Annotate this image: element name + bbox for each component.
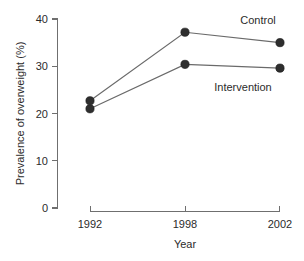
- y-tick-label-40: 40: [36, 13, 48, 25]
- y-tick-label-30: 30: [36, 60, 48, 72]
- x-tick-label-1992: 1992: [78, 218, 102, 230]
- y-tick-label-20: 20: [36, 108, 48, 120]
- x-tick-label-2002: 2002: [268, 218, 292, 230]
- x-axis-title: Year: [174, 238, 197, 250]
- data-point-intervention-2002: [276, 64, 284, 72]
- series-label-intervention: Intervention: [214, 81, 271, 93]
- series-label-control: Control: [240, 14, 275, 26]
- x-tick-label-1998: 1998: [173, 218, 197, 230]
- data-point-intervention-1998: [181, 60, 189, 68]
- data-point-control-2002: [276, 39, 284, 47]
- data-point-control-1992: [86, 97, 94, 105]
- line-chart: 0 10 20 30 40 Prevalence of overweight (…: [0, 0, 304, 261]
- y-tick-label-10: 10: [36, 155, 48, 167]
- data-point-control-1998: [181, 28, 189, 36]
- series-layer: [86, 28, 284, 113]
- y-tick-label-0: 0: [42, 202, 48, 214]
- data-point-intervention-1992: [86, 105, 94, 113]
- y-axis-title: Prevalence of overweight (%): [14, 42, 26, 186]
- chart-figure: 0 10 20 30 40 Prevalence of overweight (…: [0, 0, 304, 261]
